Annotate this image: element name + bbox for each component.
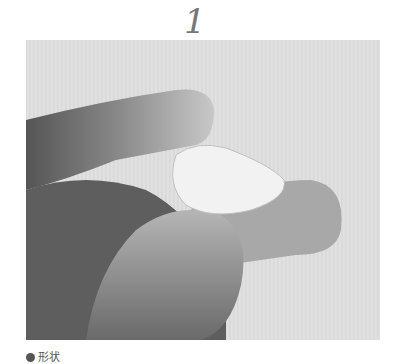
hand-with-clay-image bbox=[26, 40, 380, 340]
photo bbox=[26, 40, 380, 340]
caption: 形状 bbox=[26, 348, 60, 364]
caption-label: 形状 bbox=[38, 351, 60, 364]
step-number: 1 bbox=[184, 4, 206, 38]
bullet-icon bbox=[26, 353, 35, 362]
